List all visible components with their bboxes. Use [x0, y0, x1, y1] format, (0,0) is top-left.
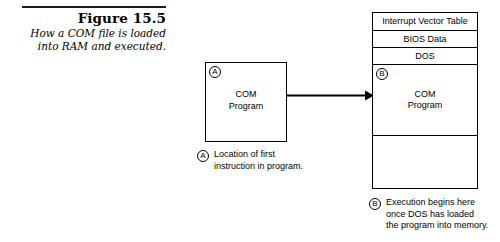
figure-caption: How a COM file is loaded into RAM and ex… [22, 27, 166, 52]
com-file-label: COM Program [206, 89, 286, 112]
figure-caption-line-1: How a COM file is loaded [22, 27, 166, 40]
legend-b-text: Execution begins here once DOS has loade… [386, 197, 488, 232]
ram-row-label: BIOS Data [403, 34, 446, 45]
figure-caption-block: Figure 15.5 How a COM file is loaded int… [22, 6, 166, 52]
figure-caption-line-2: into RAM and executed. [22, 40, 166, 53]
legend-a-text: Location of first instruction in program… [214, 149, 303, 172]
legend-a: A Location of first instruction in progr… [197, 149, 303, 172]
ram-row-dos: DOS [373, 48, 477, 65]
legend-b-line-1: Execution begins here [386, 197, 488, 209]
ram-row-label: DOS [415, 51, 435, 62]
ram-row-com-program: B COM Program [373, 65, 477, 136]
com-ram-label-line-2: Program [408, 100, 443, 111]
figure-number: Figure 15.5 [22, 11, 166, 26]
legend-a-line-2: instruction in program. [214, 161, 303, 173]
legend-b-line-3: the program into memory. [386, 220, 488, 232]
com-file-label-line-2: Program [206, 101, 286, 113]
legend-a-marker-icon: A [197, 150, 209, 162]
ram-row-interrupt-vector-table: Interrupt Vector Table [373, 13, 477, 31]
load-arrow [286, 86, 374, 106]
ram-row-bios-data: BIOS Data [373, 31, 477, 48]
caption-rule [22, 6, 166, 8]
legend-a-line-1: Location of first [214, 149, 303, 161]
com-ram-label-line-1: COM [408, 89, 443, 100]
figure-15-5: Figure 15.5 How a COM file is loaded int… [0, 0, 500, 242]
ram-row-free-memory [373, 136, 477, 188]
legend-b: B Execution begins here once DOS has loa… [369, 197, 488, 232]
marker-b-circle-icon: B [376, 68, 388, 80]
com-file-box: A COM Program [205, 62, 287, 142]
legend-b-line-2: once DOS has loaded [386, 209, 488, 221]
com-ram-label: COM Program [408, 89, 443, 111]
marker-a-circle-icon: A [209, 66, 221, 78]
com-file-label-line-1: COM [206, 89, 286, 101]
ram-row-label: Interrupt Vector Table [382, 16, 467, 27]
ram-memory-map: Interrupt Vector Table BIOS Data DOS B C… [372, 12, 478, 189]
load-arrow-icon [286, 86, 374, 106]
legend-b-marker-icon: B [369, 198, 381, 210]
